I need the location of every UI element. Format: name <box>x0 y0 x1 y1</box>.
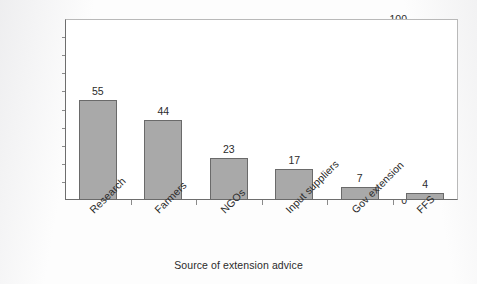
bar-value-label: 55 <box>78 86 118 97</box>
bar-value-label: 4 <box>405 179 445 190</box>
x-tick-mark <box>393 200 394 205</box>
x-axis-title: Source of extension advice <box>0 259 477 271</box>
x-tick-mark <box>131 200 132 205</box>
bar-value-label: 44 <box>143 106 183 117</box>
x-tick-mark <box>327 200 328 205</box>
x-tick-mark <box>262 200 263 205</box>
x-tick-mark <box>196 200 197 205</box>
chart-page: Percentage (%) 0102030405060708090100 55… <box>0 0 477 284</box>
bar-value-label: 17 <box>274 155 314 166</box>
bar-value-label: 23 <box>209 144 249 155</box>
